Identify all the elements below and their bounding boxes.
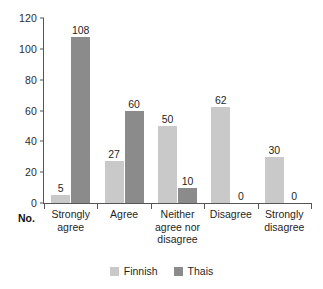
- x-axis-separator-tick: [204, 204, 205, 209]
- category-label-line: Neither: [151, 208, 204, 221]
- category-label-line: Agree: [97, 208, 150, 221]
- bar-thais[interactable]: 0: [231, 18, 250, 203]
- bar-value-label: 10: [182, 175, 194, 187]
- bar-rect[interactable]: [178, 188, 197, 203]
- category-label: Neitheragree nordisagree: [151, 208, 204, 246]
- chart-legend: FinnishThais: [0, 265, 323, 277]
- category-label-line: Strongly: [44, 208, 97, 221]
- bar-pair: 620: [204, 18, 257, 203]
- legend-swatch-icon: [110, 267, 119, 276]
- category-label: Stronglyagree: [44, 208, 97, 233]
- bar-pair: 5010: [151, 18, 204, 203]
- legend-item-finnish[interactable]: Finnish: [110, 265, 158, 277]
- bar-rect[interactable]: [105, 161, 124, 203]
- bar-rect[interactable]: [71, 37, 90, 204]
- bar-rect[interactable]: [51, 195, 70, 203]
- bar-finnish[interactable]: 62: [211, 18, 230, 203]
- bar-chart: 020406080100120510827605010620300 Strong…: [0, 0, 323, 289]
- bar-group: 5108: [44, 18, 97, 203]
- bar-thais[interactable]: 0: [285, 18, 304, 203]
- bar-value-label: 62: [215, 94, 227, 106]
- bar-pair: 2760: [97, 18, 150, 203]
- x-axis-line: [43, 203, 312, 204]
- x-axis-separator-tick: [311, 204, 312, 209]
- category-label-line: agree: [44, 221, 97, 234]
- legend-swatch-icon: [174, 267, 183, 276]
- bar-rect[interactable]: [265, 157, 284, 203]
- bar-pair: 300: [258, 18, 311, 203]
- bar-thais[interactable]: 60: [125, 18, 144, 203]
- plot-area: 020406080100120510827605010620300: [44, 18, 311, 203]
- category-label-line: disagree: [258, 221, 311, 234]
- category-label-line: Disagree: [204, 208, 257, 221]
- legend-label: Thais: [188, 265, 214, 277]
- category-label: Disagree: [204, 208, 257, 221]
- category-label-line: agree nor: [151, 221, 204, 234]
- bar-value-label: 5: [58, 182, 64, 194]
- bar-pair: 5108: [44, 18, 97, 203]
- bar-value-label: 0: [291, 190, 297, 202]
- bar-finnish[interactable]: 50: [158, 18, 177, 203]
- bar-rect[interactable]: [158, 126, 177, 203]
- bar-value-label: 27: [108, 148, 120, 160]
- bar-finnish[interactable]: 30: [265, 18, 284, 203]
- category-labels: StronglyagreeAgreeNeitheragree nordisagr…: [44, 208, 311, 260]
- bar-value-label: 50: [162, 113, 174, 125]
- bar-thais[interactable]: 108: [71, 18, 90, 203]
- bar-rect[interactable]: [125, 111, 144, 204]
- bar-value-label: 60: [128, 98, 140, 110]
- x-axis-prefix-label: No.: [18, 212, 35, 224]
- category-label: Stronglydisagree: [258, 208, 311, 233]
- legend-item-thais[interactable]: Thais: [174, 265, 214, 277]
- category-label: Agree: [97, 208, 150, 221]
- bar-value-label: 0: [238, 190, 244, 202]
- bar-thais[interactable]: 10: [178, 18, 197, 203]
- bar-value-label: 108: [72, 24, 90, 36]
- bar-group: 300: [258, 18, 311, 203]
- bar-group: 620: [204, 18, 257, 203]
- bar-value-label: 30: [268, 144, 280, 156]
- legend-label: Finnish: [124, 265, 158, 277]
- category-label-line: disagree: [151, 233, 204, 246]
- x-axis-separator-tick: [258, 204, 259, 209]
- bar-finnish[interactable]: 5: [51, 18, 70, 203]
- x-axis-separator-tick: [97, 204, 98, 209]
- bar-finnish[interactable]: 27: [105, 18, 124, 203]
- bar-group: 5010: [151, 18, 204, 203]
- bar-rect[interactable]: [211, 107, 230, 203]
- bar-group: 2760: [97, 18, 150, 203]
- category-label-line: Strongly: [258, 208, 311, 221]
- x-axis-separator-tick: [44, 204, 45, 209]
- x-axis-separator-tick: [151, 204, 152, 209]
